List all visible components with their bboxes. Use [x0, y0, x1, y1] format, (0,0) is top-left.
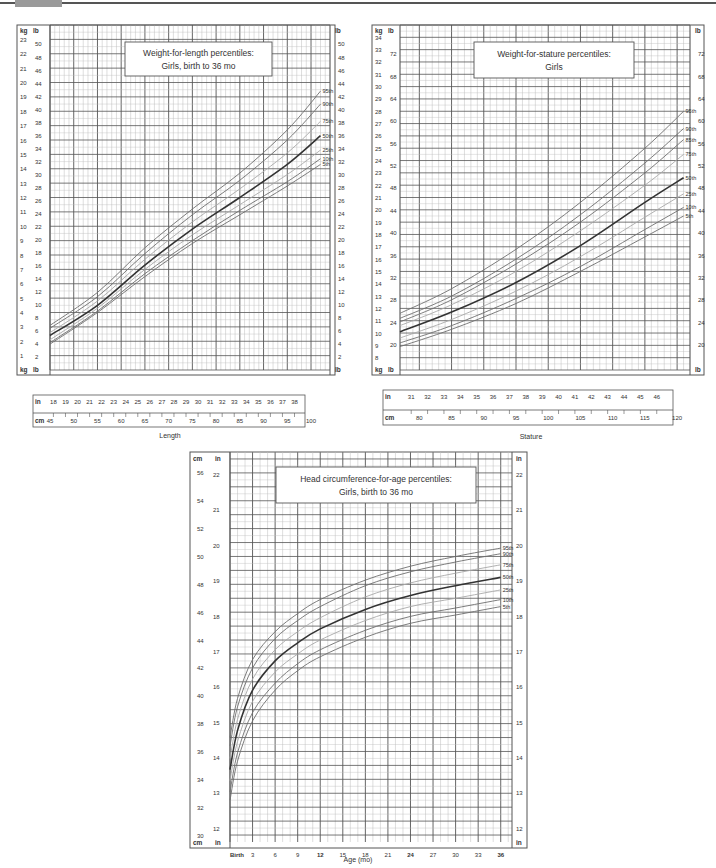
- tick-kg: 16: [375, 257, 382, 263]
- unit-in: in: [385, 393, 391, 400]
- tick-kg: 18: [20, 109, 27, 115]
- tick-in: 42: [588, 394, 595, 400]
- unit-in-right: in: [516, 455, 522, 462]
- tick-age: 3: [251, 852, 255, 858]
- tick-lb: 32: [35, 159, 42, 165]
- tick-in: 18: [50, 399, 57, 405]
- chart-subtitle: Girls, birth to 36 mo: [339, 487, 413, 497]
- tick-lb-right: 44: [338, 81, 345, 87]
- unit-kg: kg: [375, 366, 383, 374]
- unit-in: in: [35, 398, 41, 405]
- tick-lb: 44: [35, 81, 42, 87]
- unit-lb-right: lb: [335, 366, 341, 373]
- tick-in: 36: [267, 399, 274, 405]
- tick-lb: 36: [35, 133, 42, 139]
- chart-hc: cminincminin3032343638404244464850525456…: [190, 452, 527, 864]
- tick-cm: 115: [640, 415, 650, 421]
- tick-in-right: 22: [516, 472, 523, 478]
- tick-cm: 50: [70, 418, 77, 424]
- tick-lb-right: 18: [338, 250, 345, 256]
- tick-cm: 90: [260, 418, 267, 424]
- unit-kg: kg: [375, 27, 383, 35]
- tick-lb-right: 32: [698, 275, 705, 281]
- unit-lb-right: lb: [695, 366, 701, 373]
- tick-lb-right: 6: [338, 328, 342, 334]
- tick-kg: 32: [375, 59, 382, 65]
- tick-age: 12: [317, 852, 324, 858]
- tick-cm: 85: [448, 415, 455, 421]
- tick-cm: 50: [197, 554, 204, 560]
- percentile-label: 85th: [686, 137, 697, 143]
- tick-in: 19: [62, 399, 69, 405]
- percentile-label: 90th: [323, 101, 334, 107]
- tick-in: 14: [213, 755, 220, 761]
- tick-cm: 65: [142, 418, 149, 424]
- tick-age: 30: [452, 852, 459, 858]
- tick-lb-right: 28: [698, 297, 705, 303]
- tick-lb-right: 26: [338, 198, 345, 204]
- tick-in-right: 17: [516, 649, 523, 655]
- tick-cm: 80: [213, 418, 220, 424]
- unit-lb: lb: [33, 27, 39, 34]
- tick-in: 45: [637, 394, 644, 400]
- tick-in: 24: [122, 399, 129, 405]
- tick-lb-right: 14: [338, 276, 345, 282]
- tick-lb: 48: [390, 185, 397, 191]
- tick-in: 31: [408, 394, 415, 400]
- tick-kg: 21: [375, 195, 382, 201]
- tick-age: 27: [430, 852, 437, 858]
- tick-lb-right: 20: [698, 342, 705, 348]
- percentile-label: 90th: [686, 126, 697, 132]
- tick-kg: 24: [375, 158, 382, 164]
- tick-lb-right: 48: [338, 55, 345, 61]
- tick-lb: 38: [35, 120, 42, 126]
- tick-in: 40: [555, 394, 562, 400]
- tick-age: 33: [475, 852, 482, 858]
- tick-in-right: 16: [516, 684, 523, 690]
- tick-lb-right: 64: [698, 96, 705, 102]
- percentile-label: 50th: [323, 133, 334, 139]
- chart-title: Weight-for-length percentiles:: [143, 48, 254, 58]
- tick-in: 28: [171, 399, 178, 405]
- tick-age: 36: [497, 852, 504, 858]
- tick-in: 41: [572, 394, 579, 400]
- tick-lb: 40: [35, 107, 42, 113]
- tick-lb-right: 10: [338, 302, 345, 308]
- tick-in: 33: [231, 399, 238, 405]
- tick-in: 21: [86, 399, 93, 405]
- tick-lb-right: 30: [338, 172, 345, 178]
- tick-cm: 70: [165, 418, 172, 424]
- tick-kg: 15: [375, 269, 382, 275]
- tick-in: 34: [457, 394, 464, 400]
- tick-in: 39: [539, 394, 546, 400]
- tick-lb: 60: [390, 118, 397, 124]
- unit-in: in: [215, 455, 221, 462]
- tick-kg: 14: [20, 166, 27, 172]
- tick-cm: 85: [236, 418, 243, 424]
- tick-lb-right: 40: [338, 107, 345, 113]
- tick-lb: 50: [35, 41, 42, 47]
- tick-in: 20: [213, 543, 220, 549]
- tick-lb: 22: [35, 224, 42, 230]
- tick-kg: 13: [375, 294, 382, 300]
- unit-cm: cm: [193, 455, 203, 462]
- percentile-label: 95th: [686, 108, 697, 114]
- tick-lb-right: 12: [338, 289, 345, 295]
- percentile-label: 5th: [323, 161, 331, 167]
- tick-lb: 24: [390, 320, 397, 326]
- chart-title: Head circumference-for-age percentiles:: [300, 474, 452, 484]
- tick-lb-right: 4: [338, 341, 342, 347]
- tick-in: 20: [74, 399, 81, 405]
- percentile-label: 95th: [323, 88, 334, 94]
- tick-kg: 22: [20, 51, 27, 57]
- tick-lb: 46: [35, 68, 42, 74]
- tick-cm: 42: [197, 665, 204, 671]
- tick-lb: 16: [35, 263, 42, 269]
- tick-cm: 75: [189, 418, 196, 424]
- tick-cm: 36: [197, 749, 204, 755]
- tick-lb-right: 20: [338, 237, 345, 243]
- tick-in: 31: [207, 399, 214, 405]
- unit-in: in: [215, 839, 221, 846]
- tick-cm: 95: [513, 415, 520, 421]
- percentile-label: 75th: [323, 118, 334, 124]
